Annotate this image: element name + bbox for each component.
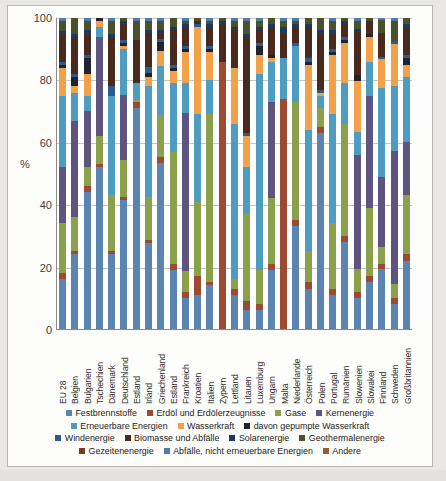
bar-column[interactable]	[182, 18, 189, 329]
bar-segment	[84, 96, 91, 112]
bar-segment	[231, 279, 238, 288]
legend-item[interactable]: Erdöl und Erdölerzeugnisse	[147, 408, 266, 418]
bar-segment	[219, 62, 226, 329]
legend-item[interactable]: Erneuerbare Energien	[71, 421, 168, 431]
x-axis-tick-label: Estland	[132, 332, 139, 404]
bar-segment	[157, 163, 164, 329]
bar-column[interactable]	[219, 18, 226, 329]
legend-item[interactable]: Abfälle, nicht erneuerbare Energien	[164, 446, 313, 456]
legend-item[interactable]: Gezeitenenergie	[79, 446, 154, 456]
bar-column[interactable]	[133, 18, 140, 329]
bar-column[interactable]	[256, 18, 263, 329]
bar-segment	[354, 132, 361, 155]
bar-segment	[182, 83, 189, 114]
y-axis-tick-label: 80	[40, 74, 52, 86]
x-axis-tick-label: Slowenien	[354, 332, 361, 404]
legend-label: Abfälle, nicht erneuerbare Energien	[173, 446, 313, 456]
legend-item[interactable]: Geothermalenergie	[299, 433, 384, 443]
bar-segment	[341, 83, 348, 123]
bar-segment	[292, 226, 299, 329]
bar-segment	[145, 77, 152, 86]
bar-column[interactable]	[84, 18, 91, 329]
bar-segment	[268, 102, 275, 198]
bar-segment	[157, 21, 164, 30]
legend-item[interactable]: Windenergie	[55, 433, 114, 443]
bar-segment	[366, 208, 373, 276]
bar-segment	[157, 66, 164, 114]
bar-segment	[145, 86, 152, 197]
bar-segment	[96, 27, 103, 36]
y-axis-tick-label: 100	[34, 12, 52, 24]
bar-column[interactable]	[108, 18, 115, 329]
bar-segment	[403, 77, 410, 142]
x-axis-tick-label: Lettland	[230, 332, 237, 404]
bar-segment	[378, 177, 385, 247]
bar-segment	[403, 65, 410, 77]
legend-item[interactable]: Kernenergie	[316, 408, 374, 418]
bar-segment	[256, 46, 263, 55]
legend-item[interactable]: Festbrennstoffe	[66, 408, 137, 418]
legend-item[interactable]: Solarenergie	[229, 433, 289, 443]
legend-item[interactable]: davon gepumpte Wasserkraft	[244, 421, 369, 431]
bar-segment	[120, 160, 127, 197]
bar-column[interactable]	[341, 18, 348, 329]
bar-segment	[59, 167, 66, 223]
bar-segment	[157, 51, 164, 66]
bar-column[interactable]	[231, 18, 238, 329]
bar-segment	[120, 49, 127, 95]
bar-column[interactable]	[403, 18, 410, 329]
x-axis-tick-label: Finnland	[378, 332, 385, 404]
bar-segment	[108, 254, 115, 329]
bar-segment	[84, 192, 91, 329]
bar-column[interactable]	[378, 18, 385, 329]
bar-column[interactable]	[317, 18, 324, 329]
bar-column[interactable]	[157, 18, 164, 329]
bar-column[interactable]	[391, 18, 398, 329]
bar-column[interactable]	[71, 18, 78, 329]
y-axis-tick-label: 0	[46, 324, 52, 336]
legend-label: davon gepumpte Wasserkraft	[254, 421, 370, 431]
bar-column[interactable]	[292, 18, 299, 329]
bar-segment	[84, 34, 91, 56]
legend-swatch-icon	[299, 435, 305, 441]
bar-segment	[157, 42, 164, 51]
bar-segment	[305, 289, 312, 329]
x-axis-tick-label: Griechenland	[157, 332, 164, 404]
bar-column[interactable]	[96, 18, 103, 329]
bar-segment	[305, 251, 312, 282]
bar-segment	[108, 37, 115, 87]
legend-item[interactable]: Biomasse und Abfälle	[125, 433, 220, 443]
bar-segment	[206, 52, 213, 80]
legend-row: WindenergieBiomasse und AbfälleSolarener…	[20, 433, 420, 443]
bar-column[interactable]	[243, 18, 250, 329]
legend-item[interactable]: Wasserkraft	[178, 421, 235, 431]
legend-item[interactable]: Andere	[323, 446, 361, 456]
bar-segment	[71, 18, 78, 34]
legend-swatch-icon	[316, 410, 322, 416]
bar-segment	[317, 18, 324, 30]
bar-column[interactable]	[354, 18, 361, 329]
bar-column[interactable]	[268, 18, 275, 329]
bar-segment	[292, 27, 299, 43]
bar-column[interactable]	[59, 18, 66, 329]
bar-segment	[145, 197, 152, 240]
bar-segment	[59, 96, 66, 168]
page-root: % 100806040200 EU 28BelgienBulgarienTsch…	[0, 0, 446, 481]
bar-column[interactable]	[280, 18, 287, 329]
bar-column[interactable]	[329, 18, 336, 329]
bar-segment	[108, 86, 115, 95]
bar-segment	[170, 270, 177, 329]
bar-column[interactable]	[145, 18, 152, 329]
legend-swatch-icon	[79, 448, 85, 454]
bar-column[interactable]	[206, 18, 213, 329]
bar-segment	[182, 27, 189, 45]
legend-item[interactable]: Gase	[275, 408, 306, 418]
bar-column[interactable]	[120, 18, 127, 329]
bar-segment	[59, 21, 66, 30]
bar-column[interactable]	[194, 18, 201, 329]
bar-column[interactable]	[366, 18, 373, 329]
bar-column[interactable]	[170, 18, 177, 329]
bar-column[interactable]	[305, 18, 312, 329]
bar-segment	[403, 195, 410, 254]
bar-segment	[108, 195, 115, 251]
